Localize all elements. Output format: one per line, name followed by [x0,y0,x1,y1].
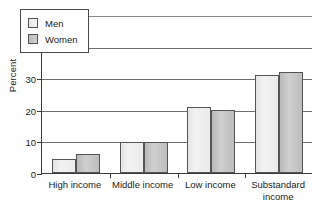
bar-women-0 [76,154,100,173]
legend: Men Women [20,9,89,53]
x-tick-mark [245,173,246,178]
bar-women-3 [279,72,303,173]
bar-men-3 [255,75,279,173]
y-axis-title: Percent [7,36,18,116]
bar-women-2 [211,110,235,173]
y-tick-mark [37,111,42,112]
x-axis-label: Substandardincome [244,179,312,202]
y-tick-label: 0 [31,169,36,180]
y-tick-label: 30 [25,74,36,85]
y-tick-mark [37,174,42,175]
y-tick-label: 10 [25,137,36,148]
legend-item-women: Women [28,31,78,47]
legend-item-men: Men [28,15,78,31]
bar-men-1 [120,142,144,173]
y-tick-mark [37,142,42,143]
x-axis-label: Low income [177,179,245,191]
x-axis-label: High income [41,179,109,191]
y-tick-mark [37,79,42,80]
y-tick-label: 20 [25,105,36,116]
bar-chart: Percent 01020304050 High incomeMiddle in… [0,0,324,222]
bar-women-1 [144,142,168,173]
legend-swatch-women-icon [28,34,38,44]
legend-label-women: Women [45,34,78,45]
legend-label-men: Men [45,18,63,29]
x-tick-mark [178,173,179,178]
x-axis-label: Middle income [109,179,177,191]
legend-swatch-men-icon [28,18,38,28]
x-tick-mark [110,173,111,178]
bar-men-0 [52,159,76,173]
bar-men-2 [187,107,211,173]
